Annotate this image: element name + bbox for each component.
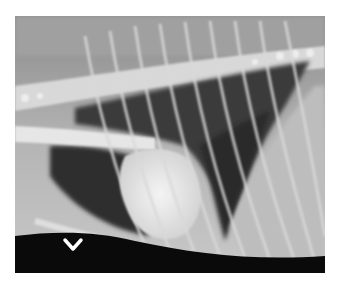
radiograph-drawing [15, 16, 325, 273]
radiograph-image [15, 16, 325, 273]
chevron-down-icon [62, 237, 84, 253]
